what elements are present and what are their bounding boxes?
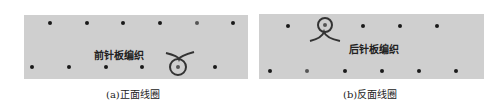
needle-dot [268, 69, 272, 73]
needle-dot [121, 21, 125, 25]
needle-dot [158, 21, 162, 25]
back-loop-icon [306, 14, 346, 44]
needle-dot [343, 69, 347, 73]
needle-dot [213, 65, 217, 69]
needle-dot [454, 69, 458, 73]
needle-dot [30, 65, 34, 69]
figure-caption: (a)正面线圈 [106, 86, 160, 101]
needle-dot [140, 65, 144, 69]
front-bed-knitting-label: 前针板编织 [94, 47, 144, 62]
needle-dot [286, 24, 290, 28]
needle-dot [48, 21, 52, 25]
figure-caption: (b)反面线圈 [343, 86, 397, 101]
front-loop-icon [160, 48, 200, 78]
needle-dot [380, 69, 384, 73]
needle-dot [435, 24, 439, 28]
needle-dot [195, 21, 199, 25]
needle-dot [104, 65, 108, 69]
needle-dot [417, 69, 421, 73]
back-bed-knitting-label: 后针板编织 [349, 41, 399, 56]
needle-dot [231, 21, 235, 25]
needle-dot [67, 65, 71, 69]
needle-dot [305, 69, 309, 73]
needle-dot [361, 24, 365, 28]
needle-dot [398, 24, 402, 28]
needle-dot [85, 21, 89, 25]
